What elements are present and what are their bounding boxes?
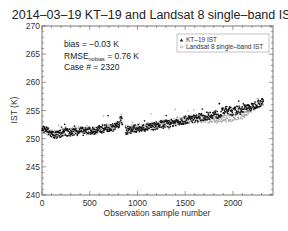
rmse-text: RMSEnobias = 0.76 K: [64, 51, 139, 62]
x-tick-label: 500: [83, 198, 97, 208]
stats-annotation: bias = −0.03 K RMSEnobias = 0.76 K Case …: [64, 39, 139, 72]
ist-scatter-chart: 2014–03–19 KT–19 and Landsat 8 single–ba…: [0, 0, 288, 231]
rmse-value: = 0.76 K: [105, 51, 140, 61]
y-tick-label: 245: [26, 162, 40, 172]
chart-title: 2014–03–19 KT–19 and Landsat 8 single–ba…: [12, 8, 288, 22]
x-tick-label: 1500: [176, 198, 195, 208]
legend-kt19: KT–19 IST: [186, 36, 217, 43]
legend-landsat: Landsat 8 single–band IST: [186, 43, 263, 51]
y-tick-label: 240: [26, 190, 40, 200]
legend: KT–19 IST Landsat 8 single–band IST: [177, 34, 269, 52]
x-tick-label: 1000: [128, 198, 147, 208]
y-tick-label: 265: [26, 49, 40, 59]
y-axis-label: IST (K): [9, 96, 19, 123]
x-tick-label: 2000: [223, 198, 242, 208]
y-tick-label: 250: [26, 134, 40, 144]
y-tick-label: 270: [26, 21, 40, 31]
bias-text: bias = −0.03 K: [64, 39, 119, 49]
y-tick-label: 260: [26, 77, 40, 87]
y-tick-label: 255: [26, 106, 40, 116]
case-count-text: Case # = 2320: [64, 62, 120, 72]
rmse-prefix: RMSE: [64, 51, 89, 61]
data-points: [41, 98, 264, 140]
x-axis-label: Observation sample number: [104, 208, 211, 218]
x-tick-label: 0: [40, 198, 45, 208]
